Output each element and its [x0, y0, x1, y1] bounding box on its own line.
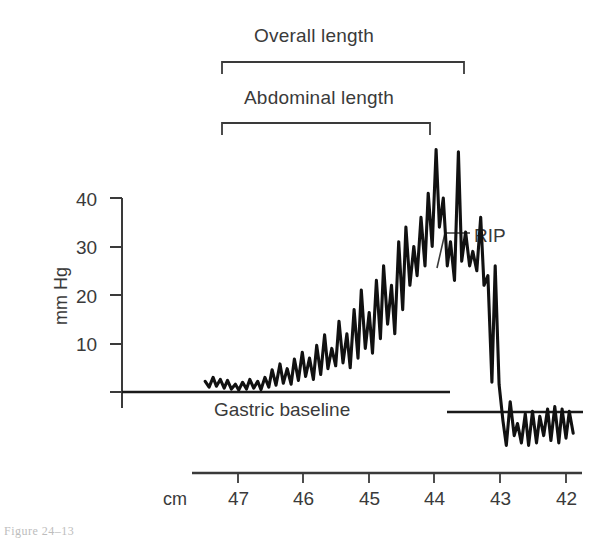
pressure-trace	[205, 150, 573, 446]
x-axis	[192, 473, 582, 483]
manometry-figure: Overall length Abdominal length mm Hg 40…	[0, 0, 611, 541]
bracket-overall-length	[222, 62, 464, 74]
figure-vector-layer	[0, 0, 611, 541]
bracket-abdominal-length	[222, 123, 430, 135]
y-axis	[110, 198, 122, 408]
